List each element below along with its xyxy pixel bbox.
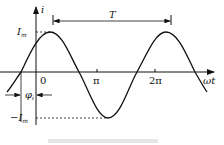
y-axis-label: i [41, 4, 44, 15]
pi-label: π [93, 75, 100, 86]
neg-amplitude-label: −Im [10, 112, 28, 124]
origin-label: 0 [40, 75, 46, 86]
amplitude-label: Im [16, 26, 27, 38]
sine-curve [7, 32, 207, 118]
figure-caption [48, 139, 158, 143]
sine-wave-diagram: i Im −Im 0 π 2π ωt T φi [0, 0, 224, 145]
two-pi-label: 2π [149, 75, 162, 86]
period-label: T [109, 9, 117, 20]
phase-label: φi [25, 89, 34, 101]
x-axis-label: ωt [203, 75, 216, 86]
